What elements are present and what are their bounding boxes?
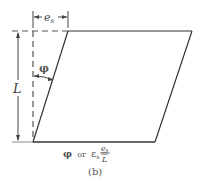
es-label: es bbox=[44, 11, 55, 25]
part-label: (b) bbox=[88, 166, 102, 177]
caption-denominator: L bbox=[101, 155, 107, 164]
es-arrowhead-right-icon bbox=[62, 15, 67, 19]
deformed-right-edge bbox=[155, 31, 192, 142]
phi-label: φ bbox=[39, 62, 49, 75]
es-arrowhead-left-icon bbox=[34, 15, 39, 19]
l-arrowhead-bottom-icon bbox=[16, 135, 20, 141]
shear-strain-diagram: es L φ φ or εs= es L (b) bbox=[0, 0, 200, 188]
deformed-left-edge bbox=[33, 31, 68, 142]
l-label: L bbox=[12, 81, 22, 96]
caption-numerator: es bbox=[101, 144, 109, 153]
l-arrowhead-top-icon bbox=[16, 32, 20, 38]
